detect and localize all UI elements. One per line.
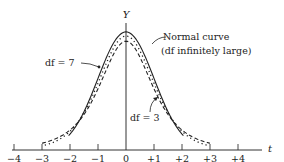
x-tick-label: +4 <box>231 153 245 162</box>
t-distribution-chart: −4−3−2−10+1+2+3+4 Y t Normal curve (df i… <box>0 0 284 162</box>
df7-label: df = 7 <box>45 57 75 68</box>
x-tick-label: 0 <box>123 153 129 162</box>
normal-label-line1: Normal curve <box>163 31 230 42</box>
df7-pointer <box>81 63 99 67</box>
x-tick-label: +1 <box>147 153 161 162</box>
x-axis-label: t <box>268 143 273 154</box>
x-tick-label: −4 <box>7 153 21 162</box>
x-tick-label: −2 <box>63 153 77 162</box>
x-tick-label: −3 <box>35 153 49 162</box>
x-tick-label: +2 <box>175 153 189 162</box>
y-axis-label: Y <box>123 9 131 20</box>
df7-pointer-dot <box>98 66 101 69</box>
df3-label: df = 3 <box>130 112 160 123</box>
x-tick-labels: −4−3−2−10+1+2+3+4 <box>7 153 245 162</box>
normal-label-line2: (df infinitely large) <box>161 45 252 56</box>
x-tick-label: +3 <box>203 153 217 162</box>
x-tick-label: −1 <box>91 153 105 162</box>
